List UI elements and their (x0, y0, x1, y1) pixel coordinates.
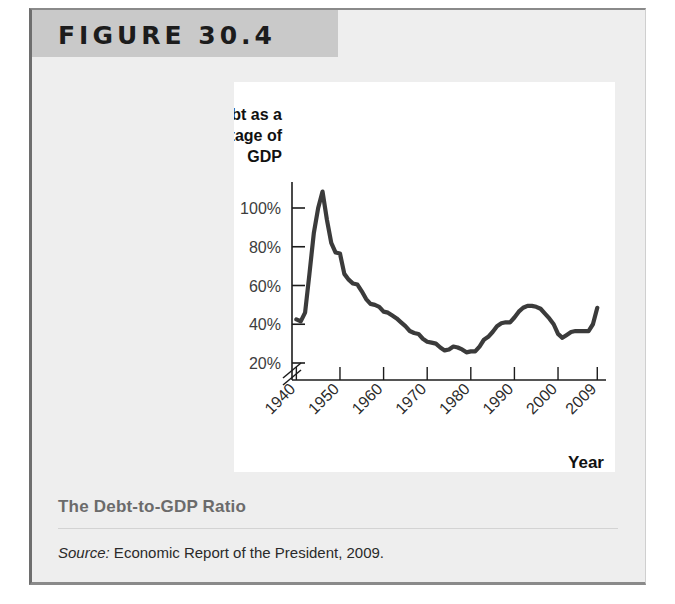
figure-source-line: Source: Economic Report of the President… (58, 544, 384, 561)
debt-to-gdp-line-chart: Debt as apercentage ofGDP20%40%60%80%100… (234, 82, 615, 472)
y-axis-tick-label: 100% (240, 200, 281, 217)
x-axis-tick-label: 2000 (523, 380, 560, 417)
y-axis-tick-label: 20% (249, 355, 281, 372)
y-axis-title-line: percentage of (234, 127, 283, 144)
x-axis-tick-label: 1970 (392, 380, 429, 417)
y-axis-tick-label: 60% (249, 278, 281, 295)
x-axis-tick-label: 1990 (479, 380, 516, 417)
figure-number-label: FIGURE 30.4 (58, 21, 276, 50)
debt-ratio-series-line (296, 192, 597, 353)
y-axis-title-line: GDP (247, 148, 282, 165)
y-axis-tick-label: 80% (249, 239, 281, 256)
source-text: Economic Report of the President, 2009. (110, 544, 384, 561)
figure-banner: FIGURE 30.4 (32, 10, 338, 57)
y-axis-tick-label: 40% (249, 316, 281, 333)
source-label: Source: (58, 544, 110, 561)
figure-card: FIGURE 30.4 Debt as apercentage ofGDP20%… (29, 8, 646, 585)
figure-caption-title: The Debt-to-GDP Ratio (58, 497, 246, 517)
chart-panel: Debt as apercentage ofGDP20%40%60%80%100… (234, 82, 615, 472)
x-axis-tick-label: 1960 (349, 380, 386, 417)
x-axis-tick-label: 1940 (261, 380, 298, 417)
x-axis-title: Year (568, 453, 604, 472)
caption-divider (58, 528, 618, 529)
x-axis-tick-label: 1980 (436, 380, 473, 417)
x-axis-tick-label: 1950 (305, 380, 342, 417)
x-axis-tick-label: 2009 (562, 380, 599, 417)
y-axis-title-line: Debt as a (234, 106, 282, 123)
